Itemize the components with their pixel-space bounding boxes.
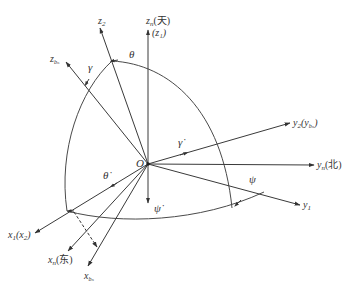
label-xn: xn(东): [47, 253, 73, 267]
label-theta-dot: θ̇: [103, 169, 112, 181]
arc-bottom: [67, 192, 264, 219]
label-gamma-dot: γ̇: [178, 136, 186, 148]
label-z2: z2: [97, 15, 106, 28]
arc-top: [112, 61, 232, 208]
label-theta: θ: [129, 48, 135, 60]
origin-point: [146, 162, 150, 166]
axis-xbn: [88, 164, 148, 266]
rotation-diagram: O zn(天) (z₁) z2 zbₙ y2(ybₙ) yn(北) y1 x1(…: [0, 0, 348, 289]
label-xbn: xbₙ: [83, 270, 94, 282]
axis-yn: [148, 164, 314, 165]
arrow-gamma: [86, 79, 89, 84]
arc-left: [65, 61, 112, 211]
axis-y2: [148, 123, 290, 164]
label-x1: x1(x2): [7, 229, 31, 242]
axis-x1: [35, 164, 148, 233]
arrow-theta-dot: [112, 183, 117, 186]
label-yn: yn(北): [316, 159, 342, 172]
label-zbn: zbₙ: [49, 53, 60, 65]
diagram-canvas: O zn(天) (z₁) z2 zbₙ y2(ybₙ) yn(北) y1 x1(…: [0, 0, 348, 289]
label-gamma: γ: [88, 61, 93, 73]
label-y1: y1: [302, 199, 311, 212]
label-psi-dot: ψ̇: [154, 202, 165, 214]
axis-z2: [100, 28, 148, 164]
origin-label: O: [136, 157, 144, 169]
arrow-theta: [112, 60, 118, 61]
dashed-projection: [74, 212, 97, 247]
label-zn-z1: (z₁): [152, 27, 167, 39]
label-y2: y2(ybₙ): [292, 117, 318, 130]
axis-y1: [148, 164, 300, 205]
label-psi: ψ: [249, 173, 256, 185]
